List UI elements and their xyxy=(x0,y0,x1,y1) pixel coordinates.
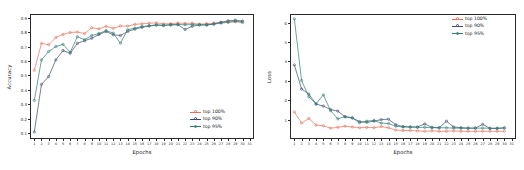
loss-chart-x-tick-label: 8 xyxy=(344,142,346,146)
accuracy-chart-legend-item[interactable]: top 100% xyxy=(190,109,225,115)
loss-chart-x-tick-label: 13 xyxy=(379,142,383,146)
accuracy-chart-legend-item[interactable]: top 90% xyxy=(190,116,225,122)
accuracy-chart-x-tick-mark xyxy=(142,139,143,141)
accuracy-chart-x-tick-mark xyxy=(243,139,244,141)
loss-chart-x-tick-mark xyxy=(490,139,491,141)
accuracy-chart-x-tick-mark xyxy=(99,139,100,141)
accuracy-chart-x-tick-mark xyxy=(156,139,157,141)
loss-chart-x-tick-label: 11 xyxy=(365,142,369,146)
loss-chart-x-tick-mark xyxy=(338,139,339,141)
accuracy-chart-y-tick-label: 0.3 xyxy=(17,102,27,107)
loss-chart-legend-item[interactable]: top 95% xyxy=(452,31,487,37)
figure-two-panel: Accuracy Epochs top 100%top 90%top 95% 0… xyxy=(0,0,524,170)
loss-chart-y-tick-mark xyxy=(288,23,290,24)
accuracy-chart-y-tick-mark xyxy=(28,75,30,76)
accuracy-chart-x-tick-mark xyxy=(199,139,200,141)
loss-chart-x-tick-label: 9 xyxy=(351,142,353,146)
loss-chart-legend-item[interactable]: top 100% xyxy=(452,16,487,22)
accuracy-chart-x-tick-mark xyxy=(92,139,93,141)
accuracy-chart-x-tick-label: 2 xyxy=(40,142,42,146)
accuracy-chart-y-tick-label: 0.1 xyxy=(17,131,27,136)
accuracy-chart-x-tick-mark xyxy=(178,139,179,141)
loss-chart-x-tick-mark xyxy=(302,139,303,141)
accuracy-chart-x-tick-label: 5 xyxy=(62,142,64,146)
accuracy-chart-x-tick-mark xyxy=(171,139,172,141)
accuracy-chart-x-tick-mark xyxy=(63,139,64,141)
loss-chart-y-tick-label: 1 xyxy=(277,117,287,122)
accuracy-chart-y-tick-label: 0.4 xyxy=(17,87,27,92)
accuracy-chart-series-line xyxy=(34,22,242,71)
accuracy-chart-x-tick-label: 27 xyxy=(219,142,223,146)
legend-swatch-icon xyxy=(190,110,201,115)
accuracy-chart-y-tick-mark xyxy=(28,104,30,105)
accuracy-chart-y-tick-label: 0.7 xyxy=(17,44,27,49)
legend-label: top 100% xyxy=(203,109,225,115)
accuracy-chart-x-tick-label: 13 xyxy=(118,142,122,146)
accuracy-chart-x-tick-mark xyxy=(56,139,57,141)
loss-chart-x-tick-mark xyxy=(439,139,440,141)
accuracy-chart-y-tick-mark xyxy=(28,119,30,120)
accuracy-legend: top 100%top 90%top 95% xyxy=(190,109,225,130)
loss-chart-x-tick-label: 7 xyxy=(337,142,339,146)
legend-swatch-icon xyxy=(452,17,463,22)
accuracy-chart-x-tick-mark xyxy=(85,139,86,141)
loss-chart-y-tick-label: 2 xyxy=(277,98,287,103)
accuracy-chart-y-tick-mark xyxy=(28,90,30,91)
loss-chart-x-tick-mark xyxy=(410,139,411,141)
loss-chart-x-tick-label: 16 xyxy=(401,142,405,146)
loss-chart-x-tick-mark xyxy=(512,139,513,141)
accuracy-chart-y-tick-label: 0.6 xyxy=(17,58,27,63)
legend-swatch-icon xyxy=(190,117,201,122)
accuracy-chart-x-tick-label: 29 xyxy=(233,142,237,146)
accuracy-chart-x-tick-mark xyxy=(228,139,229,141)
loss-chart-y-tick-mark xyxy=(288,100,290,101)
accuracy-chart-x-tick-label: 30 xyxy=(240,142,244,146)
loss-chart-y-tick-mark xyxy=(288,120,290,121)
accuracy-chart-legend-item[interactable]: top 95% xyxy=(190,124,225,130)
accuracy-chart-x-tick-mark xyxy=(164,139,165,141)
loss-chart-x-tick-mark xyxy=(381,139,382,141)
loss-panel: Loss Epochs top 100%top 90%top 95% 12345… xyxy=(262,0,524,170)
accuracy-chart-y-tick-label: 0.9 xyxy=(17,15,27,20)
loss-chart-x-tick-label: 27 xyxy=(481,142,485,146)
accuracy-chart-x-tick-label: 20 xyxy=(169,142,173,146)
loss-chart-legend-item[interactable]: top 90% xyxy=(452,23,487,29)
loss-chart-x-tick-mark xyxy=(446,139,447,141)
loss-chart-x-tick-label: 10 xyxy=(357,142,361,146)
accuracy-chart-x-tick-label: 8 xyxy=(83,142,85,146)
accuracy-chart-y-tick-mark xyxy=(28,133,30,134)
legend-swatch-icon xyxy=(452,31,463,36)
accuracy-chart-x-tick-mark xyxy=(106,139,107,141)
loss-chart-x-tick-mark xyxy=(294,139,295,141)
loss-chart-x-tick-mark xyxy=(504,139,505,141)
accuracy-chart-series-line xyxy=(34,22,242,101)
loss-chart-x-tick-label: 17 xyxy=(408,142,412,146)
accuracy-chart-x-tick-mark xyxy=(70,139,71,141)
accuracy-chart-x-tick-label: 21 xyxy=(176,142,180,146)
loss-chart-x-tick-label: 4 xyxy=(315,142,317,146)
legend-label: top 100% xyxy=(465,16,487,22)
loss-chart-x-tick-label: 12 xyxy=(372,142,376,146)
loss-chart-x-tick-mark xyxy=(367,139,368,141)
loss-chart-x-tick-mark xyxy=(461,139,462,141)
accuracy-chart-x-tick-mark xyxy=(207,139,208,141)
accuracy-chart-x-tick-mark xyxy=(128,139,129,141)
accuracy-chart-x-tick-mark xyxy=(34,139,35,141)
loss-chart-x-tick-label: 24 xyxy=(459,142,463,146)
loss-chart-x-tick-mark xyxy=(403,139,404,141)
loss-chart-x-tick-mark xyxy=(345,139,346,141)
accuracy-chart-x-tick-mark xyxy=(235,139,236,141)
loss-chart-x-tick-mark xyxy=(309,139,310,141)
accuracy-chart-x-tick-mark xyxy=(49,139,50,141)
accuracy-chart-x-tick-label: 19 xyxy=(161,142,165,146)
loss-chart-x-tick-label: 30 xyxy=(502,142,506,146)
accuracy-chart-x-tick-mark xyxy=(192,139,193,141)
loss-chart-x-tick-label: 22 xyxy=(444,142,448,146)
loss-chart-x-tick-mark xyxy=(389,139,390,141)
loss-chart-x-tick-label: 1 xyxy=(293,142,295,146)
legend-label: top 95% xyxy=(465,31,484,37)
accuracy-chart-x-tick-label: 9 xyxy=(91,142,93,146)
loss-chart-x-tick-label: 19 xyxy=(423,142,427,146)
accuracy-chart-x-tick-label: 14 xyxy=(125,142,129,146)
legend-label: top 90% xyxy=(465,23,484,29)
